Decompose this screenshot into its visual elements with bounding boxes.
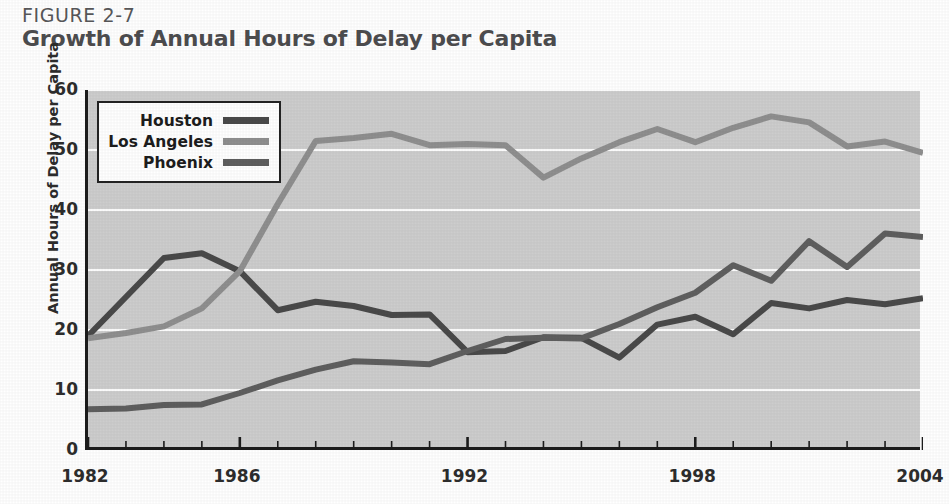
figure-title: Growth of Annual Hours of Delay per Capi… — [22, 26, 557, 51]
legend-color-swatch — [223, 138, 269, 145]
y-tick-label: 60 — [38, 81, 78, 98]
legend-item-phoenix: Phoenix — [109, 152, 269, 173]
y-tick-label: 30 — [38, 261, 78, 278]
x-tick-label: 1986 — [213, 466, 260, 486]
legend-item-label: Phoenix — [143, 154, 213, 172]
x-tick-label: 1992 — [441, 466, 488, 486]
legend-item-los-angeles: Los Angeles — [109, 131, 269, 152]
legend-color-swatch — [223, 117, 269, 124]
figure-container: FIGURE 2-7 Growth of Annual Hours of Del… — [0, 0, 949, 504]
legend-item-label: Los Angeles — [108, 133, 213, 151]
legend-color-swatch — [223, 159, 269, 166]
y-tick-label: 10 — [38, 381, 78, 398]
y-tick-label: 40 — [38, 201, 78, 218]
x-tick-label: 1998 — [669, 466, 716, 486]
y-axis-tick-labels: 0102030405060 — [36, 0, 78, 504]
y-tick-label: 0 — [38, 441, 78, 458]
y-tick-label: 20 — [38, 321, 78, 338]
x-tick-label: 2004 — [896, 466, 943, 486]
x-tick-label: 1982 — [61, 466, 108, 486]
legend-item-label: Houston — [140, 112, 213, 130]
x-axis-ticks — [88, 437, 923, 450]
y-tick-label: 50 — [38, 141, 78, 158]
legend-item-houston: Houston — [109, 110, 269, 131]
chart-legend: HoustonLos AngelesPhoenix — [97, 101, 281, 183]
